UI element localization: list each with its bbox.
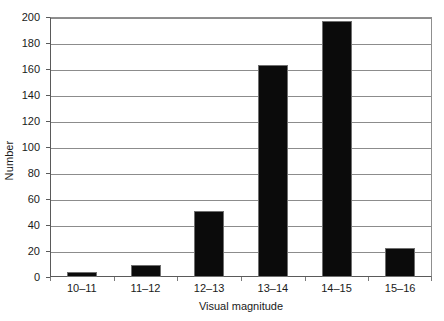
y-axis-tick-label: 60: [28, 193, 40, 205]
x-axis-tick: [305, 277, 306, 281]
x-axis-tick-label: 12–13: [194, 282, 225, 294]
y-axis-tick-label: 180: [22, 37, 40, 49]
y-axis-tick-label: 120: [22, 115, 40, 127]
x-axis-tick: [368, 277, 369, 281]
x-axis-tick-label: 15–16: [385, 282, 416, 294]
plot-area: [50, 17, 432, 277]
y-axis-tick-label: 80: [28, 167, 40, 179]
gridline: [51, 174, 431, 175]
x-axis-tick: [114, 277, 115, 281]
y-axis-tick-label: 40: [28, 219, 40, 231]
y-axis-tick-label: 100: [22, 141, 40, 153]
x-axis-tick: [241, 277, 242, 281]
y-axis-tick-label: 0: [34, 271, 40, 283]
y-axis-tick-label: 140: [22, 89, 40, 101]
gridline: [51, 18, 431, 19]
gridline: [51, 44, 431, 45]
y-axis-tick-label: 200: [22, 11, 40, 23]
y-axis-tick-label: 20: [28, 245, 40, 257]
gridline: [51, 148, 431, 149]
x-axis-tick: [431, 277, 432, 281]
x-axis-tick-label: 14–15: [321, 282, 352, 294]
x-axis-tick-label: 10–11: [67, 282, 97, 294]
y-axis-tick-labels: 020406080100120140160180200: [0, 17, 46, 277]
gridline: [51, 122, 431, 123]
gridline: [51, 96, 431, 97]
gridline: [51, 70, 431, 71]
x-axis-tick-label: 13–14: [258, 282, 289, 294]
x-axis-tick: [177, 277, 178, 281]
gridline: [51, 226, 431, 227]
x-axis-tick: [50, 277, 51, 281]
gridline: [51, 252, 431, 253]
x-axis-tick-label: 11–12: [131, 282, 161, 294]
gridline: [51, 200, 431, 201]
x-axis-tick-labels: 10–1111–1212–1313–1414–1515–16: [50, 282, 432, 298]
bar-chart-figure: Number 020406080100120140160180200 10–11…: [0, 0, 444, 321]
y-axis-tick-label: 160: [22, 63, 40, 75]
x-axis-title: Visual magnitude: [50, 300, 432, 312]
